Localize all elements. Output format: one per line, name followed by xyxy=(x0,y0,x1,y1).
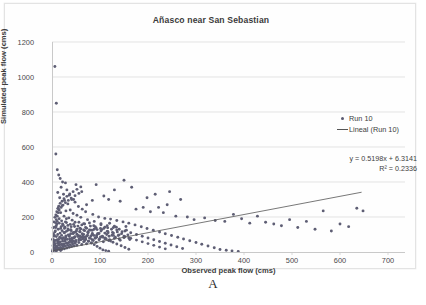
scatter-point xyxy=(64,240,67,243)
scatter-point xyxy=(140,225,143,228)
scatter-point xyxy=(141,235,144,238)
scatter-point xyxy=(129,231,132,234)
scatter-point xyxy=(61,181,64,184)
scatter-point xyxy=(106,230,109,233)
scatter-point xyxy=(56,238,59,241)
x-axis-tick-label: 200 xyxy=(133,256,163,265)
scatter-point xyxy=(88,229,91,232)
scatter-point xyxy=(158,240,161,243)
scatter-point xyxy=(154,193,157,196)
scatter-point xyxy=(89,237,92,240)
scatter-point xyxy=(58,241,61,244)
scatter-point xyxy=(122,220,125,223)
scatter-point xyxy=(200,243,203,246)
scatter-point xyxy=(152,238,155,241)
scatter-point xyxy=(99,247,102,250)
scatter-point xyxy=(55,102,58,105)
y-axis-tick-label: 0 xyxy=(0,248,34,257)
legend-label-lineal-run-10: Lineal (Run 10) xyxy=(349,125,399,134)
scatter-point xyxy=(69,209,72,212)
scatter-point xyxy=(62,223,65,226)
scatter-point xyxy=(77,192,80,195)
scatter-point xyxy=(296,226,299,229)
scatter-point xyxy=(120,244,123,247)
chart-frame: Añasco near San Sebastian 02004006008001… xyxy=(4,3,416,269)
scatter-point xyxy=(94,237,97,240)
scatter-point xyxy=(108,222,111,225)
scatter-point xyxy=(162,211,165,214)
x-axis-line xyxy=(52,252,405,253)
scatter-point xyxy=(71,239,74,242)
scatter-point xyxy=(135,239,138,242)
scatter-point xyxy=(79,216,82,219)
scatter-point xyxy=(74,194,77,197)
scatter-point xyxy=(98,238,101,241)
scatter-point xyxy=(115,229,118,232)
chart-legend: Run 10 Lineal (Run 10) xyxy=(335,113,399,135)
scatter-point xyxy=(58,217,61,220)
scatter-point xyxy=(170,244,173,247)
scatter-point xyxy=(280,224,283,227)
scatter-point xyxy=(101,248,104,251)
scatter-point xyxy=(113,188,116,191)
scatter-point xyxy=(65,195,68,198)
scatter-point xyxy=(68,234,71,237)
y-axis-tick-label: 600 xyxy=(0,143,34,152)
scatter-point xyxy=(64,220,67,223)
legend-item-lineal-run-10: Lineal (Run 10) xyxy=(335,124,399,135)
scatter-point xyxy=(175,245,178,248)
scatter-point xyxy=(103,217,106,220)
scatter-point xyxy=(152,244,155,247)
scatter-point xyxy=(74,235,77,238)
scatter-point xyxy=(53,65,56,68)
scatter-point xyxy=(181,247,184,250)
scatter-point xyxy=(272,223,275,226)
scatter-point xyxy=(57,174,60,177)
scatter-point xyxy=(72,190,75,193)
scatter-point xyxy=(62,193,65,196)
scatter-point xyxy=(87,231,90,234)
scatter-point xyxy=(141,240,144,243)
scatter-point xyxy=(65,230,68,233)
scatter-point xyxy=(102,195,105,198)
scatter-point xyxy=(164,232,167,235)
scatter-point xyxy=(124,246,127,249)
scatter-point xyxy=(58,196,61,199)
x-axis-tick-label: 400 xyxy=(229,256,259,265)
scatter-point xyxy=(240,217,243,220)
scatter-point xyxy=(53,247,56,250)
scatter-point xyxy=(65,217,68,220)
scatter-point xyxy=(115,243,118,246)
scatter-point xyxy=(164,242,167,245)
scatter-point xyxy=(146,227,149,230)
regression-r-squared: R² = 0.2336 xyxy=(305,164,417,174)
scatter-point xyxy=(64,201,67,204)
scatter-point xyxy=(62,204,65,207)
scatter-point xyxy=(96,228,99,231)
scatter-point xyxy=(75,239,78,242)
x-axis-tick-label: 700 xyxy=(373,256,403,265)
regression-equation: y = 0.5198x + 6.3141 xyxy=(305,154,417,164)
scatter-point xyxy=(130,186,133,189)
regression-annotation: y = 0.5198x + 6.3141 R² = 0.2336 xyxy=(305,154,417,174)
scatter-point xyxy=(100,230,103,233)
scatter-point xyxy=(168,190,171,193)
scatter-point xyxy=(103,232,106,235)
scatter-point xyxy=(57,228,60,231)
scatter-point xyxy=(77,221,80,224)
scatter-point xyxy=(87,240,90,243)
scatter-point xyxy=(115,219,118,222)
scatter-point xyxy=(142,206,145,209)
scatter-point xyxy=(232,213,235,216)
scatter-point xyxy=(355,207,358,210)
scatter-point xyxy=(96,245,99,248)
figure-container: Añasco near San Sebastian 02004006008001… xyxy=(0,0,426,305)
scatter-point xyxy=(56,215,59,218)
scatter-point xyxy=(193,218,196,221)
scatter-point xyxy=(147,242,150,245)
scatter-point xyxy=(305,220,308,223)
chart-plot-svg xyxy=(5,4,417,270)
scatter-point xyxy=(55,218,58,221)
scatter-point xyxy=(128,238,131,241)
scatter-point xyxy=(97,216,100,219)
